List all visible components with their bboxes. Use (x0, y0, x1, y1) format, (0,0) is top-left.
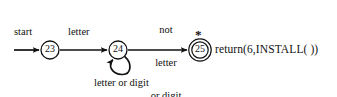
transition-label-line-1: not (131, 24, 201, 35)
transition-label-line-3: or digit (131, 90, 201, 97)
accepting-marker-asterisk-icon: * (195, 28, 202, 41)
transition-label-letter-or-digit: letter or digit (94, 77, 149, 88)
transition-label-start: start (14, 26, 32, 37)
transition-label-letter: letter (68, 26, 90, 37)
state-label-23: 23 (44, 44, 56, 55)
transition-label-line-2: letter (131, 57, 201, 68)
state-label-24: 24 (112, 44, 124, 55)
state-diagram-canvas: start letter not letter or digit letter … (0, 0, 337, 97)
action-label-return-install: return(6,INSTALL( )) (215, 43, 318, 55)
state-label-25: 25 (194, 44, 206, 55)
